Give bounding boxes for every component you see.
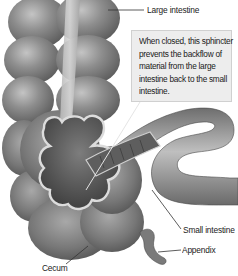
appendix-leader: [158, 250, 181, 252]
label-large-intestine: Large intestine: [147, 4, 199, 15]
sphincter-callout-box: When closed, this sphincter prevents the…: [131, 30, 232, 102]
intestine-diagram: Large intestine Small intestine Appendix…: [0, 0, 238, 276]
label-appendix: Appendix: [182, 244, 215, 255]
sphincter-callout-text: When closed, this sphincter prevents the…: [139, 35, 234, 98]
label-small-intestine: Small intestine: [183, 224, 235, 235]
label-cecum: Cecum: [42, 262, 68, 273]
appendix-shape: [140, 229, 166, 264]
